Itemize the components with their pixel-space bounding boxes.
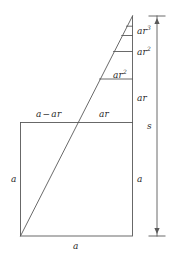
arrowhead-up-icon bbox=[154, 18, 159, 24]
label-a-right-side: a bbox=[137, 175, 143, 184]
figure-drawing bbox=[0, 0, 176, 262]
arrowhead-down-icon bbox=[154, 228, 159, 234]
label-a-left-side: a bbox=[11, 175, 17, 184]
label-ar-top-edge: ar bbox=[99, 110, 109, 119]
label-a-bottom-side: a bbox=[73, 242, 79, 251]
label-s-total: s bbox=[147, 122, 152, 131]
label-ar-squared-right: ar2 bbox=[137, 48, 151, 57]
square-outline bbox=[21, 123, 133, 237]
label-ar-cubed: ar3 bbox=[137, 27, 151, 36]
label-a-minus-ar: a−ar bbox=[36, 110, 61, 119]
label-ar-squared-inner: ar2 bbox=[113, 71, 127, 80]
label-ar-right: ar bbox=[137, 94, 147, 103]
geometric-series-figure: ar3 ar2 ar2 ar a−ar ar a a a s bbox=[0, 0, 176, 262]
hypotenuse-line bbox=[21, 16, 133, 236]
